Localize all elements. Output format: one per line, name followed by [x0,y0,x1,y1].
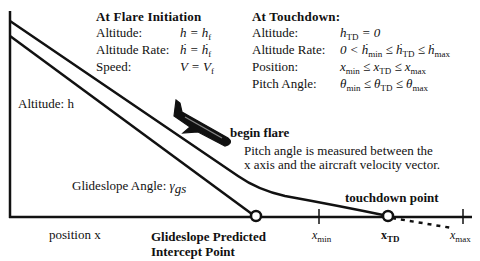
touchdown-altitude-rate-expr: 0 < ḣmin ≤ ḣTD ≤ ḣmax [340,42,450,59]
touchdown-title: At Touchdown: [252,9,450,25]
touchdown-pitch-expr: θmin ≤ θTD ≤ θmax [340,76,428,93]
touchdown-position-label: Position: [252,59,340,76]
touchdown-row-position: Position: xmin ≤ xTD ≤ xmax [252,59,450,76]
touchdown-row-altitude-rate: Altitude Rate: 0 < ḣmin ≤ ḣTD ≤ ḣmax [252,42,450,59]
altitude-axis-label: Altitude: h [18,96,74,112]
x-max-label: xmax [450,228,471,244]
intercept-line1: Glideslope Predicted [151,229,266,244]
position-axis-label: position x [49,227,101,243]
flare-row-altitude-rate: Altitude Rate: ḣ = ḣf [96,42,214,59]
flare-altitude-rate-expr: ḣ = ḣf [180,42,211,59]
intercept-point-marker [251,211,261,221]
flare-initiation-block: At Flare Initiation Altitude: h = hf Alt… [96,9,214,76]
flare-speed-expr: V = Vf [180,59,214,76]
intercept-point-label: Glideslope Predicted Intercept Point [151,229,266,259]
flare-altitude-expr: h = hf [180,25,211,42]
touchdown-block: At Touchdown: Altitude: hTD = 0 Altitude… [252,9,450,93]
intercept-line2: Intercept Point [151,244,266,259]
touchdown-altitude-label: Altitude: [252,25,340,42]
flare-row-speed: Speed: V = Vf [96,59,214,76]
flare-altitude-label: Altitude: [96,25,180,42]
flare-altitude-rate-label: Altitude Rate: [96,42,180,59]
pitch-note-line1: Pitch angle is measured between the [244,144,440,158]
touchdown-position-expr: xmin ≤ xTD ≤ xmax [340,59,426,76]
flare-row-altitude: Altitude: h = hf [96,25,214,42]
flare-speed-label: Speed: [96,59,180,76]
pitch-angle-note: Pitch angle is measured between the x ax… [244,144,440,172]
touchdown-altitude-expr: hTD = 0 [340,25,380,42]
touchdown-altitude-rate-label: Altitude Rate: [252,42,340,59]
touchdown-row-altitude: Altitude: hTD = 0 [252,25,450,42]
flare-initiation-title: At Flare Initiation [96,9,214,25]
x-min-label: xmin [312,228,331,244]
touchdown-point-marker [383,211,393,221]
pitch-note-line2: x axis and the aircraft velocity vector. [244,158,440,172]
touchdown-point-label: touchdown point [345,190,439,206]
x-td-label: xTD [381,228,400,244]
touchdown-pitch-label: Pitch Angle: [252,76,340,93]
begin-flare-label: begin flare [230,125,289,141]
touchdown-row-pitch: Pitch Angle: θmin ≤ θTD ≤ θmax [252,76,450,93]
touchdown-dispersion-dash [392,218,452,228]
glideslope-angle-label: Glideslope Angle: γgs [72,178,186,197]
